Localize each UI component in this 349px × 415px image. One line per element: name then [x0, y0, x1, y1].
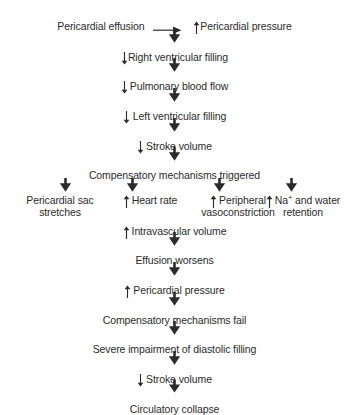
down-arrow-icon [59, 178, 72, 192]
branch-label-line1: Heart rate [110, 194, 190, 206]
branch-na-water-retention: Na+ and water retention [258, 194, 348, 218]
node-pericardial-pressure-1: Pericardial pressure [193, 20, 291, 32]
branch-pericardial-sac-stretches: Pericardial sac stretches [6, 194, 114, 218]
node-compensatory-mechanisms-triggered: Compensatory mechanisms triggered [89, 169, 260, 181]
down-arrow-icon [126, 178, 139, 192]
down-arrow-icon [213, 178, 226, 192]
down-arrow-icon [168, 118, 181, 132]
down-arrow-icon [168, 262, 181, 276]
branch-heart-rate: Heart rate [110, 194, 190, 206]
down-arrow-icon [285, 178, 298, 192]
flowchart-canvas: Pericardial effusion Pericardial pressur… [0, 0, 349, 415]
down-arrow-icon [168, 321, 181, 335]
flow-row-circulatory-collapse: Circulatory collapse [0, 399, 349, 415]
down-arrow-icon [168, 232, 181, 246]
down-arrow-icon [168, 351, 181, 365]
node-circulatory-collapse: Circulatory collapse [130, 403, 220, 415]
down-arrow-icon [168, 58, 181, 72]
node-pericardial-effusion: Pericardial effusion [57, 20, 144, 32]
node-label: Pericardial pressure [200, 20, 291, 32]
down-arrow-icon [168, 88, 181, 102]
down-arrow-icon [168, 29, 181, 43]
branch-label-line2: stretches [6, 206, 114, 218]
branch-label-line1: Na+ and water [258, 194, 348, 206]
down-arrow-icon [168, 380, 181, 394]
down-arrow-icon [168, 147, 181, 161]
down-arrow-icon [168, 292, 181, 306]
branch-label-line1: Pericardial sac [6, 194, 114, 206]
